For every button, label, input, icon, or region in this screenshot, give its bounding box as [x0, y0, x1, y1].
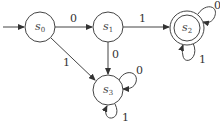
- state-s1: s1: [93, 12, 123, 42]
- svg-text:1: 1: [199, 53, 206, 66]
- automaton-diagram: 0 1 1 0 0 1 0 1 s0 s1: [0, 0, 220, 125]
- svg-text:1: 1: [122, 111, 129, 124]
- state-s0: s0: [25, 12, 55, 42]
- svg-text:0: 0: [70, 12, 77, 25]
- transition-s2-s2-1: 1: [182, 43, 206, 66]
- svg-text:1: 1: [139, 12, 146, 25]
- transition-s1-s2: 1: [123, 12, 169, 27]
- transition-s0-s1: 0: [55, 12, 92, 27]
- transition-s0-s3: 1: [51, 38, 95, 80]
- state-s3: s3: [93, 75, 123, 105]
- svg-text:0: 0: [112, 48, 119, 61]
- svg-text:0: 0: [214, 0, 220, 12]
- svg-text:1: 1: [63, 56, 70, 69]
- state-s2-accepting: s2: [170, 11, 204, 45]
- transition-s3-s3-1: 1: [106, 104, 129, 124]
- transition-s1-s3: 0: [108, 42, 119, 74]
- svg-text:0: 0: [136, 64, 143, 77]
